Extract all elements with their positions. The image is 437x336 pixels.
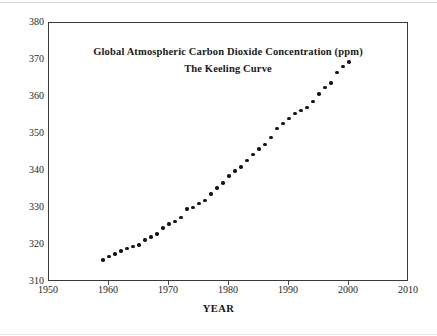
data-point bbox=[179, 216, 182, 219]
y-tick-label: 350 bbox=[10, 128, 44, 138]
data-point bbox=[293, 112, 296, 115]
data-point bbox=[161, 226, 164, 229]
plot-inner: Global Atmospheric Carbon Dioxide Concen… bbox=[49, 23, 407, 280]
x-tick-mark bbox=[288, 281, 289, 285]
x-tick-mark bbox=[108, 281, 109, 285]
data-point bbox=[173, 220, 176, 223]
x-tick-label: 1980 bbox=[206, 285, 250, 295]
x-tick-mark bbox=[168, 281, 169, 285]
data-point bbox=[107, 255, 110, 258]
x-axis-title: YEAR bbox=[0, 303, 437, 314]
data-point bbox=[239, 165, 242, 168]
data-point bbox=[257, 147, 260, 150]
data-point bbox=[215, 186, 218, 189]
data-point bbox=[245, 159, 248, 162]
data-point bbox=[209, 192, 212, 195]
chart-title: Global Atmospheric Carbon Dioxide Concen… bbox=[49, 43, 407, 60]
data-point bbox=[311, 100, 314, 103]
data-point bbox=[125, 247, 128, 250]
data-point bbox=[227, 174, 230, 177]
y-tick-label: 360 bbox=[10, 91, 44, 101]
x-tick-mark bbox=[228, 281, 229, 285]
image-bottom-edge-line bbox=[0, 334, 437, 335]
x-tick-label: 1960 bbox=[86, 285, 130, 295]
chart-figure: 310320330340350360370380 195019601970198… bbox=[0, 0, 437, 336]
data-point bbox=[305, 106, 308, 109]
data-point bbox=[251, 153, 254, 156]
image-top-edge-line bbox=[0, 2, 437, 3]
data-point bbox=[269, 136, 272, 139]
data-point bbox=[119, 249, 122, 252]
plot-area: Global Atmospheric Carbon Dioxide Concen… bbox=[48, 22, 408, 281]
data-point bbox=[281, 122, 284, 125]
data-point bbox=[287, 117, 290, 120]
data-point bbox=[167, 222, 170, 225]
data-point bbox=[197, 202, 200, 205]
data-point bbox=[341, 65, 344, 68]
data-point bbox=[263, 143, 266, 146]
data-point bbox=[275, 127, 278, 130]
y-tick-label: 370 bbox=[10, 54, 44, 64]
data-point bbox=[185, 207, 188, 210]
y-tick-label: 340 bbox=[10, 165, 44, 175]
y-tick-label: 320 bbox=[10, 239, 44, 249]
data-point bbox=[137, 243, 140, 246]
data-point bbox=[221, 181, 224, 184]
data-point bbox=[143, 238, 146, 241]
data-point bbox=[191, 206, 194, 209]
data-point bbox=[335, 71, 338, 74]
data-point bbox=[299, 109, 302, 112]
data-point bbox=[233, 169, 236, 172]
y-tick-label: 330 bbox=[10, 202, 44, 212]
data-point bbox=[323, 86, 326, 89]
x-tick-label: 2010 bbox=[386, 285, 430, 295]
x-tick-label: 2000 bbox=[326, 285, 370, 295]
data-point bbox=[155, 232, 158, 235]
data-point bbox=[149, 235, 152, 238]
y-tick-label: 380 bbox=[10, 17, 44, 27]
x-tick-mark bbox=[348, 281, 349, 285]
chart-title-block: Global Atmospheric Carbon Dioxide Concen… bbox=[49, 43, 407, 77]
data-point bbox=[113, 252, 116, 255]
data-point bbox=[131, 245, 134, 248]
data-point bbox=[317, 92, 320, 95]
x-tick-label: 1990 bbox=[266, 285, 310, 295]
data-point bbox=[347, 60, 350, 63]
chart-subtitle: The Keeling Curve bbox=[49, 60, 407, 77]
data-point bbox=[329, 81, 332, 84]
data-point bbox=[203, 199, 206, 202]
x-tick-label: 1950 bbox=[26, 285, 70, 295]
data-point bbox=[101, 258, 104, 261]
x-tick-label: 1970 bbox=[146, 285, 190, 295]
